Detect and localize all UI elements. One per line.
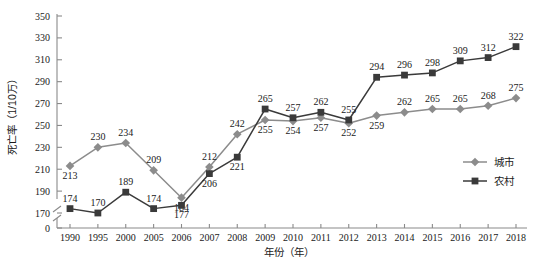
data-point-label: 177 xyxy=(174,209,189,220)
legend-label: 城市 xyxy=(494,156,514,168)
x-tick-label: 2015 xyxy=(422,232,442,243)
data-point-label: 230 xyxy=(90,131,105,142)
data-point-label: 312 xyxy=(481,42,496,53)
data-point-label: 174 xyxy=(146,193,161,204)
data-point-marker xyxy=(513,43,520,50)
data-point-marker xyxy=(400,108,409,117)
x-tick-label: 2011 xyxy=(311,232,331,243)
data-point-label: 255 xyxy=(258,124,273,135)
data-point-label: 257 xyxy=(286,102,301,113)
data-point-marker xyxy=(122,189,129,196)
data-point-label: 212 xyxy=(202,151,217,162)
data-point-marker xyxy=(262,106,269,113)
data-point-label: 170 xyxy=(90,197,105,208)
data-point-marker xyxy=(428,105,437,114)
data-point-marker xyxy=(484,101,493,110)
data-point-marker xyxy=(401,72,408,79)
data-point-label: 275 xyxy=(509,82,524,93)
data-point-marker xyxy=(94,210,101,217)
data-point-label: 262 xyxy=(397,96,412,107)
x-tick-label: 2016 xyxy=(450,232,470,243)
data-point-marker xyxy=(512,94,521,103)
series-line xyxy=(70,98,516,198)
data-point-marker xyxy=(485,54,492,61)
data-point-label: 213 xyxy=(63,170,78,181)
data-point-label: 189 xyxy=(118,176,133,187)
legend-label: 农村 xyxy=(494,175,515,187)
data-point-label: 209 xyxy=(146,154,161,165)
y-tick-label: 170 xyxy=(35,208,50,219)
x-tick-label: 2018 xyxy=(506,232,526,243)
data-point-marker xyxy=(317,109,324,116)
y-tick-label: 0 xyxy=(45,223,50,234)
x-tick-label: 2014 xyxy=(395,232,415,243)
data-point-marker xyxy=(94,143,103,152)
x-tick-label: 2010 xyxy=(283,232,303,243)
y-axis-title: 死亡率（1/10万） xyxy=(6,74,18,154)
x-tick-label: 2005 xyxy=(144,232,164,243)
y-tick-label: 250 xyxy=(35,120,50,131)
data-point-label: 298 xyxy=(425,57,440,68)
data-point-marker xyxy=(457,57,464,64)
data-point-label: 259 xyxy=(369,120,384,131)
y-tick-label: 330 xyxy=(35,32,50,43)
x-tick-label: 1995 xyxy=(88,232,108,243)
data-point-label: 296 xyxy=(397,59,412,70)
x-tick-label: 2013 xyxy=(367,232,387,243)
data-point-label: 257 xyxy=(313,122,328,133)
data-point-label: 234 xyxy=(118,127,133,138)
legend-item-urban[interactable]: 城市 xyxy=(463,156,514,168)
data-point-label: 265 xyxy=(258,93,273,104)
data-point-label: 206 xyxy=(202,178,217,189)
data-point-label: 252 xyxy=(341,127,356,138)
data-point-marker xyxy=(67,205,74,212)
x-tick-label: 2008 xyxy=(227,232,247,243)
data-point-marker xyxy=(345,117,352,124)
x-tick-label: 2000 xyxy=(116,232,136,243)
data-point-label: 242 xyxy=(230,118,245,129)
y-tick-label: 210 xyxy=(35,164,50,175)
x-tick-label: 2006 xyxy=(172,232,192,243)
data-point-marker xyxy=(471,158,480,167)
chart-canvas: 0170190210230250270290310330350199019952… xyxy=(0,0,533,259)
data-point-label: 262 xyxy=(313,96,328,107)
x-tick-label: 2007 xyxy=(199,232,219,243)
y-tick-label: 290 xyxy=(35,76,50,87)
data-point-marker xyxy=(150,205,157,212)
y-tick-label: 350 xyxy=(35,11,50,22)
data-point-marker xyxy=(290,114,297,121)
y-tick-label: 190 xyxy=(35,186,50,197)
x-tick-label: 1990 xyxy=(60,232,80,243)
data-point-marker xyxy=(206,170,213,177)
data-point-marker xyxy=(429,70,436,77)
y-tick-label: 310 xyxy=(35,54,50,65)
data-point-marker xyxy=(234,154,241,161)
data-point-marker xyxy=(456,105,465,114)
x-tick-label: 2009 xyxy=(255,232,275,243)
mortality-rate-line-chart: 0170190210230250270290310330350199019952… xyxy=(0,0,533,259)
data-point-label: 268 xyxy=(481,90,496,101)
data-point-marker xyxy=(472,178,479,185)
data-point-label: 265 xyxy=(453,93,468,104)
x-tick-label: 2017 xyxy=(478,232,498,243)
x-tick-label: 2012 xyxy=(339,232,359,243)
data-point-label: 322 xyxy=(509,31,524,42)
data-point-label: 255 xyxy=(341,104,356,115)
data-point-marker xyxy=(373,74,380,81)
data-point-label: 254 xyxy=(286,125,301,136)
data-point-label: 265 xyxy=(425,93,440,104)
data-point-label: 221 xyxy=(230,161,245,172)
data-point-label: 294 xyxy=(369,61,384,72)
legend-item-rural[interactable]: 农村 xyxy=(463,175,515,187)
y-tick-label: 270 xyxy=(35,98,50,109)
data-point-label: 174 xyxy=(63,193,78,204)
data-point-marker xyxy=(178,202,185,209)
data-point-label: 309 xyxy=(453,45,468,56)
y-tick-label: 230 xyxy=(35,142,50,153)
x-axis-title: 年份（年） xyxy=(264,246,314,258)
